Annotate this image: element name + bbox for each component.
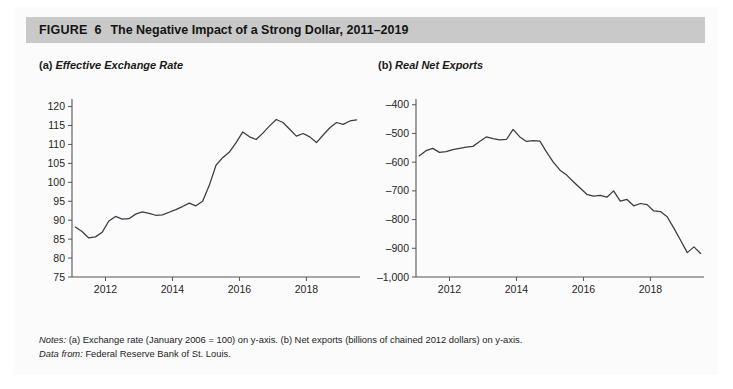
figure-container: FIGURE 6 The Negative Impact of a Strong… [14, 7, 718, 375]
x-tick-label: 2018 [639, 283, 663, 295]
y-tick-label: 80 [53, 252, 65, 264]
x-tick-label: 2014 [161, 283, 185, 295]
y-tick-label: 110 [48, 138, 65, 150]
y-tick-label: –1,000 [377, 271, 409, 283]
y-tick-label: –400 [386, 98, 410, 110]
x-tick-label: 2012 [438, 283, 462, 295]
chart-real-net-exports: –1,000–900–800–700–600–500–4002012201420… [370, 91, 710, 311]
source-label: Data from: [39, 348, 83, 359]
notes-label: Notes: [39, 334, 66, 345]
y-tick-label: –800 [386, 213, 410, 225]
y-tick-label: –900 [386, 242, 410, 254]
notes-text: (a) Exchange rate (January 2006 = 100) o… [69, 334, 523, 345]
y-tick-label: 100 [47, 176, 65, 188]
series-line [419, 129, 700, 253]
notes-line: Notes: (a) Exchange rate (January 2006 =… [39, 333, 699, 347]
panel-b-prefix: (b) [378, 59, 392, 71]
y-tick-label: 85 [53, 233, 65, 245]
x-tick-label: 2014 [505, 283, 529, 295]
y-tick-label: –500 [386, 127, 410, 139]
x-tick-label: 2018 [295, 283, 319, 295]
series-line [75, 119, 356, 238]
notes-block: Notes: (a) Exchange rate (January 2006 =… [39, 333, 699, 361]
y-tick-label: 90 [53, 214, 65, 226]
chart-a-svg: 7580859095100105110115120201220142016201… [36, 91, 366, 311]
x-tick-label: 2016 [228, 283, 252, 295]
panel-a-prefix: (a) [39, 59, 52, 71]
figure-label: FIGURE [26, 23, 87, 37]
figure-title-band: FIGURE 6 The Negative Impact of a Strong… [26, 17, 705, 43]
figure-title: The Negative Impact of a Strong Dollar, … [101, 23, 408, 37]
y-tick-label: 105 [47, 157, 65, 169]
y-tick-label: –700 [386, 184, 410, 196]
panel-b-title: Real Net Exports [395, 59, 483, 71]
y-tick-label: 115 [48, 119, 65, 131]
panel-a-heading: (a) Effective Exchange Rate [39, 59, 183, 71]
y-tick-label: 95 [53, 195, 65, 207]
y-tick-label: –600 [386, 156, 410, 168]
y-tick-label: 120 [47, 100, 65, 112]
y-tick-label: 75 [53, 271, 65, 283]
source-line: Data from: Federal Reserve Bank of St. L… [39, 347, 699, 361]
panel-a-title: Effective Exchange Rate [56, 59, 184, 71]
chart-effective-exchange-rate: 7580859095100105110115120201220142016201… [36, 91, 366, 311]
x-tick-label: 2012 [94, 283, 118, 295]
panel-b-heading: (b) Real Net Exports [378, 59, 483, 71]
x-tick-label: 2016 [572, 283, 596, 295]
figure-number: 6 [87, 23, 101, 37]
source-text: Federal Reserve Bank of St. Louis. [85, 348, 230, 359]
chart-b-svg: –1,000–900–800–700–600–500–4002012201420… [370, 91, 710, 311]
